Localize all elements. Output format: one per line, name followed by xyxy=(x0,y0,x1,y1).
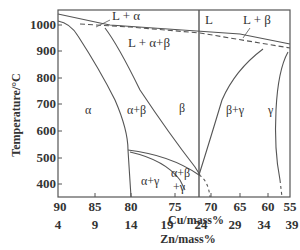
svg-text:800: 800 xyxy=(37,70,57,85)
svg-text:75: 75 xyxy=(169,199,183,214)
svg-text:500: 500 xyxy=(37,150,57,165)
svg-text:400: 400 xyxy=(37,176,57,191)
label-alpha-beta: α+β xyxy=(127,103,146,117)
svg-text:600: 600 xyxy=(37,123,57,138)
svg-text:24: 24 xyxy=(195,217,209,232)
phase-labels: L + α L + α+β L L + β α α+β β β+γ γ α+γ … xyxy=(85,8,274,194)
solidus-line xyxy=(80,24,290,48)
label-beta: β xyxy=(179,101,185,115)
label-beta-gamma: β+γ xyxy=(226,103,245,117)
label-L-beta: L + β xyxy=(243,12,271,27)
gamma-boundary xyxy=(276,52,289,180)
svg-text:65: 65 xyxy=(234,199,248,214)
svg-text:39: 39 xyxy=(286,217,300,232)
svg-text:90: 90 xyxy=(54,199,67,214)
svg-text:900: 900 xyxy=(37,43,57,58)
y-tick-labels: 1000 900 800 700 600 500 400 xyxy=(30,17,56,191)
label-L-alpha: L + α xyxy=(112,8,140,23)
svg-text:14: 14 xyxy=(125,217,139,232)
label-alpha-beta-low: α+β xyxy=(171,166,190,180)
svg-text:29: 29 xyxy=(229,217,243,232)
label-gamma: γ xyxy=(267,103,274,117)
label-plus-gamma: +γ xyxy=(173,180,186,194)
label-alpha: α xyxy=(85,103,92,117)
y-axis-title: Temperature/°C xyxy=(9,73,23,156)
label-L-alpha-beta: L + α+β xyxy=(128,35,170,50)
svg-text:19: 19 xyxy=(161,217,175,232)
svg-text:80: 80 xyxy=(125,199,138,214)
label-alpha-gamma: α+γ xyxy=(141,174,160,188)
svg-text:85: 85 xyxy=(89,199,103,214)
svg-text:700: 700 xyxy=(37,96,57,111)
svg-text:70: 70 xyxy=(205,199,218,214)
svg-text:34: 34 xyxy=(258,217,272,232)
chart-canvas: 1000 900 800 700 600 500 400 Temperature… xyxy=(0,0,299,250)
svg-text:55: 55 xyxy=(284,199,298,214)
svg-text:9: 9 xyxy=(92,217,99,232)
label-L: L xyxy=(205,12,213,27)
svg-text:4: 4 xyxy=(55,217,62,232)
beta-boundary xyxy=(105,28,200,175)
svg-text:1000: 1000 xyxy=(30,17,56,32)
svg-text:60: 60 xyxy=(262,199,275,214)
x-axis-title-zn: Zn/mass% xyxy=(160,232,215,246)
x-tick-labels-cu: 90 85 80 75 70 65 60 55 xyxy=(54,199,298,214)
phase-diagram: 1000 900 800 700 600 500 400 Temperature… xyxy=(0,0,299,250)
alpha-boundary xyxy=(58,21,131,197)
